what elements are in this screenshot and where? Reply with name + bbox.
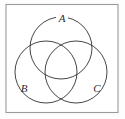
- set-label-a: A: [58, 12, 66, 24]
- set-label-c: C: [93, 82, 101, 94]
- venn-diagram-canvas: A B C: [0, 0, 125, 119]
- venn-diagram-figure: A B C: [0, 0, 125, 119]
- set-label-b: B: [21, 82, 28, 94]
